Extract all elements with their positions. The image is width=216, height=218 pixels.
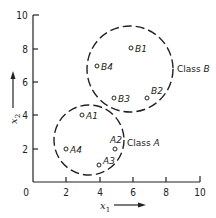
point-b4-label: B4: [101, 62, 113, 72]
point-b3: [112, 96, 116, 100]
x-tick-6: 6: [130, 187, 136, 198]
point-a1-label: A1: [85, 111, 98, 121]
x-arrowhead-icon: [138, 203, 146, 208]
x-tick-0: 0: [23, 187, 29, 198]
point-a3: [97, 163, 101, 167]
y-tick-10: 10: [16, 10, 28, 21]
class-a-label: Class A: [127, 138, 160, 148]
class-b-points: B1 B2 B3 B4: [95, 44, 163, 104]
point-b2: [145, 96, 149, 100]
x-tick-10: 10: [194, 187, 206, 198]
point-b1-label: B1: [135, 44, 147, 54]
point-a2-label: A2: [109, 135, 122, 145]
x-tick-8: 8: [163, 187, 169, 198]
y-tick-labels: 10 8 6 4 2: [16, 10, 28, 155]
point-b2-label: B2: [151, 86, 163, 96]
y-axis-title: x2: [8, 71, 22, 124]
svg-text:x2: x2: [8, 114, 22, 124]
point-b1: [129, 46, 133, 50]
point-b4: [95, 64, 99, 68]
point-b3-label: B3: [118, 94, 130, 104]
point-a4: [64, 147, 68, 151]
point-a3-label: A3: [102, 156, 115, 166]
x-axis-title: x1: [100, 200, 146, 214]
y-tick-4: 4: [22, 110, 28, 121]
class-b-label: Class B: [177, 64, 210, 74]
class-b-boundary: [87, 26, 173, 112]
class-a-points: A1 A2 A3 A4: [64, 111, 122, 167]
point-a4-label: A4: [69, 145, 82, 155]
feature-space-diagram: 10 8 6 4 2 0 2 4 6 8 10 x1 x2 Class B Cl…: [0, 0, 216, 218]
svg-text:x1: x1: [100, 200, 110, 214]
x-tick-labels: 0 2 4 6 8 10: [23, 187, 206, 198]
y-axis-title-subscript: 2: [14, 114, 22, 118]
y-tick-2: 2: [22, 144, 28, 155]
y-tick-8: 8: [22, 44, 28, 55]
x-tick-2: 2: [63, 187, 69, 198]
y-arrowhead-icon: [11, 71, 16, 79]
point-a2: [113, 147, 117, 151]
y-tick-6: 6: [22, 77, 28, 88]
point-a1: [80, 113, 84, 117]
x-tick-4: 4: [97, 187, 103, 198]
x-axis-title-subscript: 1: [106, 206, 110, 214]
